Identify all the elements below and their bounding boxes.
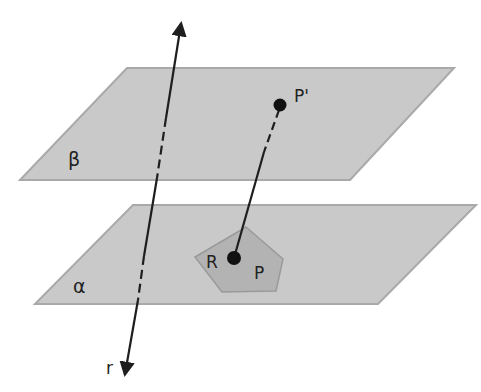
label-p-prime: P' xyxy=(294,86,309,106)
label-beta: β xyxy=(68,148,80,170)
point-r xyxy=(227,251,241,265)
plane-beta xyxy=(20,68,454,180)
diagram-canvas: β α P' R P r xyxy=(0,0,481,392)
label-polygon-p: P xyxy=(254,263,264,283)
point-p-prime xyxy=(274,99,287,112)
label-r-point: R xyxy=(206,252,218,272)
label-line-r: r xyxy=(106,358,113,378)
label-alpha: α xyxy=(73,275,86,297)
